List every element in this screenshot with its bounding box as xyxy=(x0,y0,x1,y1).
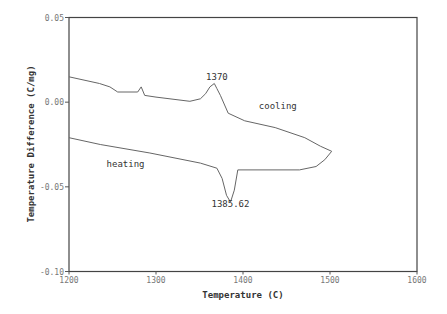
x-tick-label: 1600 xyxy=(407,276,426,285)
y-tick-label: 0.05 xyxy=(45,14,64,23)
y-tick-label: -0.10 xyxy=(40,268,64,277)
y-tick-label: 0.00 xyxy=(45,98,64,107)
plot-frame xyxy=(69,18,417,272)
annotation-1370: 1370 xyxy=(206,72,228,82)
x-tick-label: 1200 xyxy=(59,276,78,285)
annotations: 1370coolingheating1385.62 xyxy=(107,72,297,209)
heating-curve xyxy=(69,138,332,202)
series-group xyxy=(69,77,332,202)
annotation-1385-62: 1385.62 xyxy=(212,199,250,209)
annotation-heating: heating xyxy=(107,159,145,169)
y-axis-title: Temperature Difference (C/mg) xyxy=(26,65,36,222)
dta-chart: 120013001400150016000.050.00-0.05-0.10 1… xyxy=(0,0,447,314)
x-axis-title: Temperature (C) xyxy=(202,290,283,300)
annotation-cooling: cooling xyxy=(259,101,297,111)
x-tick-label: 1500 xyxy=(320,276,339,285)
axes: 120013001400150016000.050.00-0.05-0.10 xyxy=(40,14,427,285)
x-tick-label: 1400 xyxy=(233,276,252,285)
y-tick-label: -0.05 xyxy=(40,183,64,192)
x-tick-label: 1300 xyxy=(146,276,165,285)
cooling-curve xyxy=(69,77,332,152)
